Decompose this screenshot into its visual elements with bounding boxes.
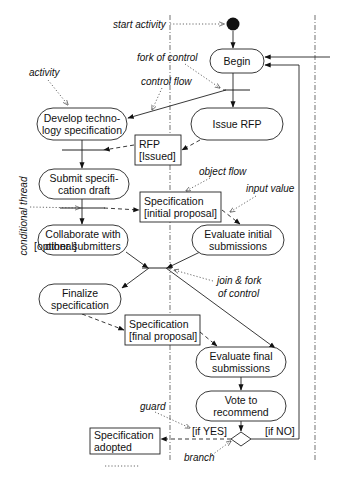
flow-collaborate-join: [126, 252, 148, 268]
activity-begin: Begin: [210, 49, 264, 73]
oflow-finalize-specfinal: [82, 314, 124, 330]
extras: conditional thread: [18, 176, 140, 466]
activity-submit: Submit specifi-cation draft: [39, 169, 129, 199]
activity-evaluate-initial: Evaluate initialsubmissions: [192, 225, 284, 255]
guard-yes: [if YES]: [192, 425, 227, 437]
node-label-line: cation draft: [58, 184, 110, 196]
node-label-line: Develop techno-: [44, 112, 121, 124]
oflow-submit-specinit: [104, 208, 139, 210]
object-spec-initial: Specification[initial proposal]: [140, 192, 221, 222]
object-label-line: [final proposal]: [129, 330, 197, 342]
oflow-issue-rfp: [182, 140, 200, 150]
node-label-line: logy specification: [42, 124, 122, 136]
annotation-branch: branch: [184, 452, 215, 463]
node-label-line: submissions: [212, 362, 270, 374]
flow-join-finalize: [122, 268, 149, 288]
guard-no: [if NO]: [265, 425, 295, 437]
guard-optional: [optional]: [34, 240, 77, 252]
pointer-guard: [155, 412, 190, 428]
activity-vote: Vote torecommend: [196, 391, 286, 421]
flow-evaluate-join: [167, 252, 200, 268]
node-label-line: Vote to: [225, 394, 258, 406]
object-label-line: adopted: [94, 441, 132, 453]
node-label-line: specification: [51, 299, 109, 311]
object-label-line: Specification: [144, 195, 204, 207]
pointer-object-flow: [186, 178, 210, 191]
object-rfp-issued: RFP[Issued]: [135, 135, 181, 165]
node-label-line: Evaluate final: [209, 350, 272, 362]
node-label-line: Finalize: [62, 287, 98, 299]
object-label-line: RFP: [139, 138, 160, 150]
annotation-control-flow: control flow: [141, 76, 192, 87]
activity-nodes: BeginDevelop techno-logy specificationIs…: [37, 49, 286, 421]
annotation-activity: activity: [29, 67, 61, 78]
node-label-line: Begin: [224, 55, 251, 67]
annotation-input-value: input value: [246, 183, 295, 194]
node-label-line: Issue RFP: [212, 118, 261, 130]
object-spec-final: Specification[final proposal]: [125, 315, 200, 345]
activity-develop: Develop techno-logy specification: [37, 108, 127, 140]
annotation-object-flow: object flow: [199, 166, 247, 177]
activity-issue-rfp: Issue RFP: [191, 108, 283, 140]
annotation-guard: guard: [140, 401, 166, 412]
node-label-line: submissions: [209, 240, 267, 252]
pointer-branch: [212, 441, 231, 455]
pointer-join-fork: [174, 270, 213, 281]
start-node-icon: [227, 18, 240, 31]
object-spec-adopted: Specificationadopted: [90, 428, 160, 454]
activity-evaluate-final: Evaluate finalsubmissions: [196, 347, 286, 377]
oflow-rfp-join: [104, 145, 134, 150]
oflow-specfinal-evalfinal: [200, 332, 217, 346]
annotation-conditional-thread: conditional thread: [18, 176, 29, 255]
activity-finalize: Finalizespecification: [39, 284, 121, 314]
activity-diagram: BeginDevelop techno-logy specificationIs…: [0, 0, 338, 481]
annotation-of-control: of control: [218, 288, 260, 299]
pointer-input-value: [230, 196, 256, 212]
node-label-line: Submit specifi-: [50, 172, 119, 184]
annotation-join-fork: join & fork: [215, 275, 262, 286]
object-label-line: Specification: [129, 318, 189, 330]
node-label-line: recommend: [213, 406, 269, 418]
oflow-specinit-evaluate: [222, 210, 240, 224]
pointer-conditional-thread: [30, 207, 80, 208]
pointer-activity: [48, 80, 68, 105]
annotation-start-activity: start activity: [113, 19, 167, 30]
node-label-line: Collaborate with: [45, 228, 120, 240]
annotation-fork-of-control: fork of control: [137, 52, 198, 63]
object-label-line: [initial proposal]: [144, 207, 217, 219]
branch-diamond-icon: [231, 432, 251, 446]
object-label-line: Specification: [94, 429, 154, 441]
pointer-control-flow: [152, 88, 162, 110]
object-label-line: [Issued]: [139, 150, 176, 162]
node-label-line: Evaluate initial: [204, 228, 272, 240]
